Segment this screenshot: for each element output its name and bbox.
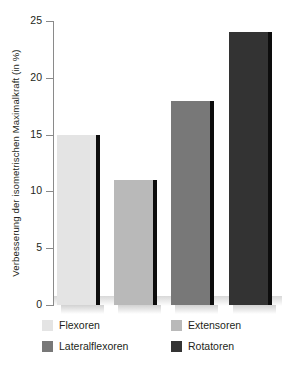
bar-edge [96, 135, 100, 305]
legend-item-rotatoren[interactable]: Rotatoren [171, 338, 234, 354]
bar-face [229, 32, 268, 305]
bar-shadow [118, 305, 161, 314]
bar-face [171, 101, 210, 305]
bar-chart-figure: Verbesserung der isometrischen Maximalkr… [0, 0, 296, 370]
bar-extensoren [114, 180, 157, 305]
y-tick-label: 10 [22, 184, 42, 197]
y-tick-mark [46, 191, 53, 192]
bar-shadow [61, 305, 104, 314]
legend-label: Extensoren [188, 319, 241, 331]
legend-swatch [171, 320, 182, 331]
chart-legend: FlexorenExtensorenLateralflexorenRotator… [40, 315, 290, 359]
y-tick-label: 20 [22, 71, 42, 84]
y-tick-label: 5 [22, 241, 42, 254]
bar-edge [268, 32, 272, 305]
bar-shadow [175, 305, 218, 314]
bar-flexoren [57, 135, 100, 305]
y-axis-title: Verbesserung der isometrischen Maximalkr… [8, 18, 24, 308]
bar-shadow [233, 305, 276, 314]
y-tick-mark [46, 78, 53, 79]
bar-face [114, 180, 153, 305]
legend-swatch [42, 320, 53, 331]
y-tick-mark [46, 305, 53, 306]
bar-rotatoren [229, 32, 272, 305]
bar-edge [210, 101, 214, 305]
legend-label: Rotatoren [188, 340, 234, 352]
y-tick-mark [46, 248, 53, 249]
y-tick-mark [46, 135, 53, 136]
plot-area [53, 21, 279, 305]
legend-item-lateralflexoren[interactable]: Lateralflexoren [42, 338, 128, 354]
y-tick-label: 15 [22, 128, 42, 141]
bar-face [57, 135, 96, 305]
legend-label: Lateralflexoren [59, 340, 128, 352]
legend-label: Flexoren [59, 319, 100, 331]
legend-swatch [42, 341, 53, 352]
bar-lateralflexoren [171, 101, 214, 305]
bar-edge [153, 180, 157, 305]
legend-swatch [171, 341, 182, 352]
legend-item-flexoren[interactable]: Flexoren [42, 317, 100, 333]
y-tick-label: 0 [22, 298, 42, 311]
y-tick-mark [46, 21, 53, 22]
y-tick-label: 25 [22, 14, 42, 27]
legend-item-extensoren[interactable]: Extensoren [171, 317, 241, 333]
